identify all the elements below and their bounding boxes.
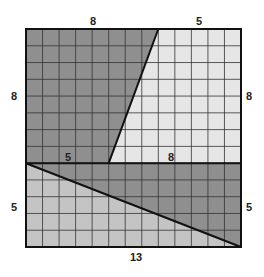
label-top-left: 8 bbox=[90, 15, 96, 27]
label-right-upper: 8 bbox=[246, 90, 252, 102]
regions bbox=[26, 29, 241, 247]
label-top-right: 5 bbox=[196, 15, 202, 27]
label-left-lower: 5 bbox=[11, 201, 17, 213]
label-middle-left: 5 bbox=[65, 151, 71, 163]
grid-diagram: 8 5 8 8 5 8 5 5 13 bbox=[0, 0, 264, 277]
label-bottom: 13 bbox=[130, 251, 142, 263]
label-middle-right: 8 bbox=[168, 151, 174, 163]
label-left-upper: 8 bbox=[11, 90, 17, 102]
label-right-lower: 5 bbox=[246, 201, 252, 213]
